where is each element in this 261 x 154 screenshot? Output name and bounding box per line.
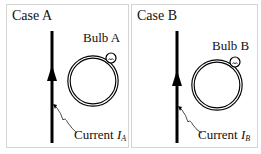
bulb-label: Bulb A — [83, 30, 120, 46]
case-label: Case A — [12, 8, 52, 24]
current-label: Current IA — [74, 127, 126, 143]
case-b-diagram — [132, 5, 257, 147]
bulb-icon — [230, 57, 240, 67]
case-a-diagram — [7, 5, 128, 147]
case-label: Case B — [137, 8, 177, 24]
bulb-icon — [106, 53, 116, 63]
bulb-label: Bulb B — [212, 38, 249, 54]
current-direction-arrow-icon — [47, 65, 57, 81]
case-a-panel: Case A Bulb A Current IA — [6, 4, 129, 148]
current-label: Current IB — [198, 127, 250, 143]
case-b-panel: Case B Bulb B Current IB — [131, 4, 258, 148]
current-direction-arrow-icon — [172, 70, 182, 86]
